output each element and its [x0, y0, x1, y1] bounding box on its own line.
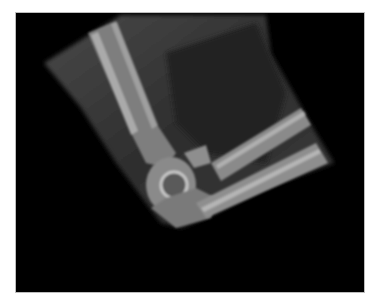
elbow-xray-drawing: [16, 13, 365, 293]
xray-image: [15, 12, 365, 293]
